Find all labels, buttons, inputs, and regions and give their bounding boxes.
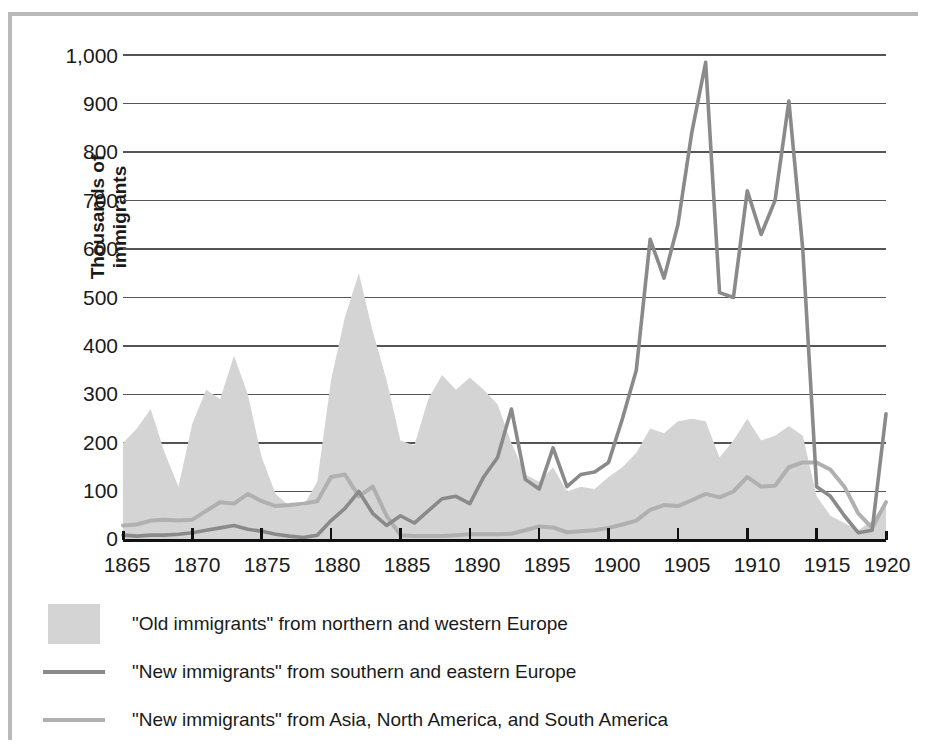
legend-line-icon xyxy=(40,650,108,694)
legend-item-new-immigrants-europe: "New immigrants" from southern and easte… xyxy=(40,648,880,696)
legend-label-old-immigrants: "Old immigrants" from northern and weste… xyxy=(108,613,568,635)
legend-item-new-immigrants-other: "New immigrants" from Asia, North Americ… xyxy=(40,696,880,744)
legend-swatch-icon xyxy=(40,602,108,646)
chart-figure: Thousands of immigrants 1,000 900 800 70… xyxy=(0,0,926,754)
legend-line-icon-2 xyxy=(40,698,108,742)
legend-item-old-immigrants: "Old immigrants" from northern and weste… xyxy=(40,600,880,648)
legend-label-new-immigrants-other: "New immigrants" from Asia, North Americ… xyxy=(108,709,668,731)
legend-label-new-immigrants-europe: "New immigrants" from southern and easte… xyxy=(108,661,576,683)
chart-legend: "Old immigrants" from northern and weste… xyxy=(40,600,880,744)
